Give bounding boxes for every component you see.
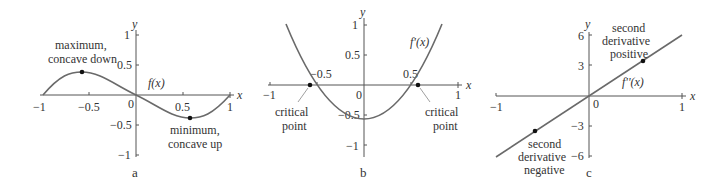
panel-a: x y −1 −0.5 0 0.5 1 1 0.5 −0.5 −1 f(x) m… (33, 17, 243, 180)
annotation-pos-line2: derivative (602, 34, 650, 48)
x-tick-label: 0 (128, 97, 134, 111)
panel-label: c (586, 165, 592, 180)
curve-label: f''(x) (622, 75, 644, 89)
panel-b: x y −1 −0.5 0 0.5 1 1 0.5 −0.5 −1 f'(x) … (263, 5, 472, 180)
y-tick-label: −1 (118, 148, 131, 162)
annotation-min-line2: concave up (168, 137, 222, 151)
annotation-left-line2: point (282, 119, 307, 133)
annotation-neg-line1: second (528, 137, 561, 151)
panel-c: x y −1 0 1 6 3 −3 −6 f''(x) second deriv… (490, 17, 696, 180)
panel-label: a (132, 165, 138, 180)
x-tick-label: 1 (679, 100, 685, 114)
y-tick-label: 0.5 (117, 58, 132, 72)
x-tick-label: 0.5 (403, 67, 418, 81)
y-tick-label: −0.5 (110, 118, 132, 132)
y-axis-label: y (584, 17, 591, 31)
annotation-pos-line1: second (612, 21, 645, 35)
y-axis-label: y (359, 5, 366, 19)
annotation-max-line2: concave down (48, 52, 117, 66)
y-tick-label: 0.5 (345, 48, 360, 62)
curve-label: f(x) (148, 76, 165, 90)
critical-point-left (308, 83, 313, 88)
minimum-point (188, 116, 193, 121)
leader-line (298, 88, 308, 102)
annotation-max-line1: maximum, (55, 38, 107, 52)
y-tick-label: 1 (124, 28, 130, 42)
annotation-pos-line3: positive (610, 47, 648, 61)
annotation-neg-line3: negative (524, 163, 565, 177)
critical-point-right (416, 83, 421, 88)
y-tick-label: −1 (346, 139, 359, 153)
y-axis-label: y (131, 17, 138, 31)
curve-label: f'(x) (410, 35, 429, 49)
x-tick-label: 0.5 (175, 100, 190, 114)
maximum-point (80, 70, 85, 75)
panel-label: b (360, 165, 367, 180)
annotation-left-line1: critical (275, 105, 309, 119)
x-tick-label: −1 (33, 100, 46, 114)
x-tick-label: 1 (227, 100, 233, 114)
x-tick-label: −0.5 (78, 100, 100, 114)
figure: x y −1 −0.5 0 0.5 1 1 0.5 −0.5 −1 f(x) m… (0, 0, 726, 187)
x-tick-label: 0 (356, 88, 362, 102)
negative-point (533, 129, 538, 134)
y-tick-label: −3 (571, 119, 584, 133)
y-tick-label: −6 (571, 149, 584, 163)
x-tick-label: 1 (455, 88, 461, 102)
x-axis-label: x (236, 88, 243, 102)
annotation-right-line2: point (433, 119, 458, 133)
y-tick-label: 3 (578, 59, 584, 73)
y-tick-label: 6 (578, 29, 584, 43)
x-tick-label: 0 (593, 97, 599, 111)
x-tick-label: −1 (490, 100, 503, 114)
x-axis-label: x (689, 89, 696, 103)
annotation-min-line1: minimum, (170, 123, 220, 137)
x-tick-label: −1 (263, 88, 276, 102)
x-axis-label: x (465, 78, 472, 92)
y-tick-label: 1 (352, 18, 358, 32)
annotation-neg-line2: derivative (518, 150, 566, 164)
leader-line (420, 88, 430, 102)
annotation-right-line1: critical (425, 105, 459, 119)
